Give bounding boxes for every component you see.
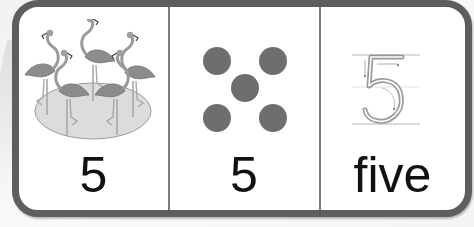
tracing-panel: five (320, 7, 465, 210)
number-digit-label: 5 (169, 147, 319, 203)
number-word-label: five (320, 147, 465, 203)
picture-panel: 5 (19, 7, 168, 210)
numeral-tracing-guide (342, 42, 442, 127)
flamingos-illustration (23, 19, 163, 147)
dots-panel: 5 (169, 7, 319, 210)
dot (203, 104, 231, 132)
dot (231, 74, 259, 102)
number-digit-label: 5 (19, 147, 168, 203)
number-five-card: 5 5 (12, 0, 472, 217)
dot (259, 104, 287, 132)
five-dots-illustration (189, 32, 299, 142)
dot (259, 47, 287, 75)
dot (203, 47, 231, 75)
number-card-page: 5 5 (0, 0, 474, 227)
